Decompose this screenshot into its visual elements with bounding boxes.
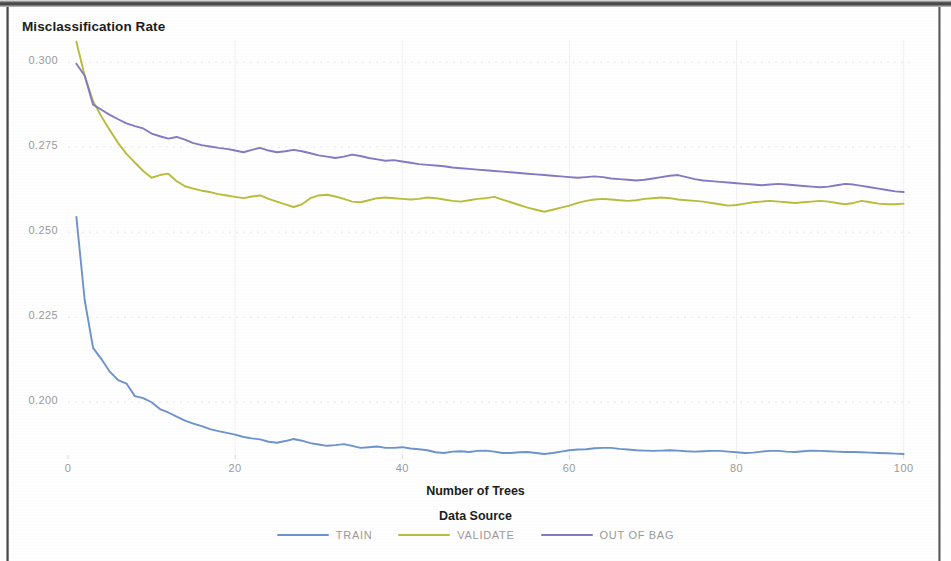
series-lines [76,42,903,454]
series-line-out-of-bag [76,64,903,192]
legend-item-out-of-bag[interactable]: OUT OF BAG [541,529,675,541]
y-axis-tick-label: 0.250 [12,224,58,236]
legend-item-train[interactable]: TRAIN [277,529,373,541]
series-line-train [76,217,903,454]
legend-item-label: TRAIN [336,529,373,541]
legend-swatch-icon [277,534,329,537]
y-axis-tick-label: 0.200 [12,394,58,406]
legend: Data Source TRAINVALIDATEOUT OF BAG [0,509,951,541]
x-axis-tick-label: 0 [48,462,88,474]
legend-item-validate[interactable]: VALIDATE [398,529,514,541]
y-axis-tick-label: 0.275 [12,139,58,151]
legend-item-label: VALIDATE [457,529,514,541]
x-axis-title: Number of Trees [0,484,951,498]
legend-item-label: OUT OF BAG [600,529,675,541]
y-axis-tick-label: 0.225 [12,309,58,321]
x-axis-tick-label: 20 [215,462,255,474]
legend-swatch-icon [398,534,450,537]
legend-title: Data Source [0,509,951,523]
line-chart-svg [0,0,951,561]
x-axis-tick-label: 60 [549,462,589,474]
tick-marks [68,455,904,459]
scanned-page: Misclassification Rate 0.2000.2250.2500.… [0,0,951,561]
series-line-validate [76,42,903,212]
plot-area: 0.2000.2250.2500.2750.300 020406080100 [0,0,951,561]
legend-items: TRAINVALIDATEOUT OF BAG [0,529,951,541]
x-axis-tick-label: 80 [717,462,757,474]
legend-swatch-icon [541,534,593,537]
y-axis-tick-label: 0.300 [12,54,58,66]
x-axis-tick-label: 40 [382,462,422,474]
gridlines [68,40,912,455]
x-axis-tick-label: 100 [884,462,924,474]
